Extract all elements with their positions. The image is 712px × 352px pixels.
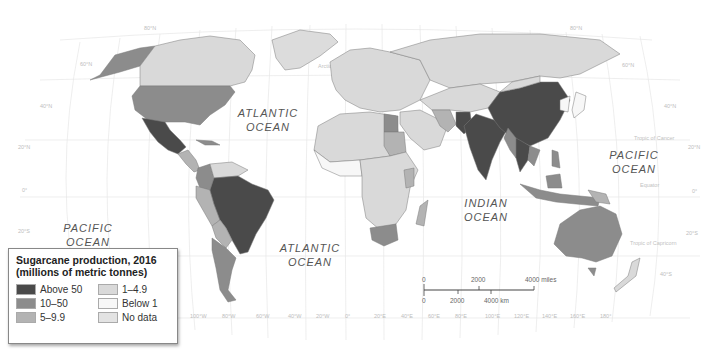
- svg-text:160°E: 160°E: [570, 313, 585, 319]
- legend-item-above-50: Above 50: [16, 284, 98, 295]
- svg-text:80°E: 80°E: [455, 313, 467, 319]
- vietnam: [528, 146, 540, 166]
- pacific-west-label-2: OCEAN: [66, 236, 110, 248]
- australia: [554, 206, 622, 262]
- pacific-west-label-1: PACIFIC: [63, 222, 113, 234]
- svg-text:60°E: 60°E: [428, 313, 440, 319]
- atlantic-south-label-2: OCEAN: [288, 256, 332, 268]
- lat-20s-right: 20°S: [686, 230, 698, 236]
- svg-text:120°E: 120°E: [514, 313, 529, 319]
- lat-20n-left: 20°N: [18, 144, 30, 150]
- egypt: [384, 114, 398, 132]
- tropic-cancer-label: Tropic of Cancer: [634, 135, 675, 141]
- cuba: [196, 140, 220, 145]
- tasmania: [588, 268, 596, 276]
- kenya: [404, 168, 414, 188]
- lat-20n-right: 20°N: [688, 144, 700, 150]
- madagascar: [416, 200, 428, 226]
- borneo: [546, 174, 562, 188]
- brazil: [210, 176, 274, 254]
- svg-text:20°E: 20°E: [374, 313, 386, 319]
- svg-text:100°E: 100°E: [485, 313, 500, 319]
- atlantic-south-label-1: ATLANTIC: [279, 242, 340, 254]
- svg-text:2000: 2000: [450, 297, 465, 304]
- atlantic-north-label-1: ATLANTIC: [237, 107, 298, 119]
- pacific-east-label-2: OCEAN: [612, 163, 656, 175]
- lat-40s-right: 40°S: [660, 271, 672, 277]
- scale-bar: 0 2000 4000 miles 0 2000 4000 km: [422, 276, 557, 304]
- legend-item-below-1: Below 1: [98, 298, 178, 309]
- svg-text:4000 km: 4000 km: [484, 297, 509, 304]
- svg-text:40°E: 40°E: [401, 313, 413, 319]
- svg-text:100°W: 100°W: [190, 313, 207, 319]
- svg-text:180°: 180°: [600, 313, 611, 319]
- svg-text:0: 0: [422, 276, 426, 283]
- legend-item-1-4.9: 1–4.9: [98, 284, 178, 295]
- south-africa: [370, 224, 398, 246]
- lat-40n-right: 40°N: [664, 103, 676, 109]
- lat-80n-right: 80°N: [570, 25, 582, 31]
- svg-text:60°W: 60°W: [256, 313, 270, 319]
- lat-60n-right: 60°N: [622, 62, 634, 68]
- svg-text:0°: 0°: [345, 313, 350, 319]
- lat-80n-left: 80°N: [144, 25, 156, 31]
- svg-text:140°E: 140°E: [542, 313, 557, 319]
- argentina: [212, 238, 236, 302]
- legend-item-10-50: 10–50: [16, 298, 98, 309]
- svg-text:2000: 2000: [471, 276, 486, 283]
- philippines: [552, 150, 560, 168]
- pacific-east-label-1: PACIFIC: [609, 149, 659, 161]
- svg-text:4000 miles: 4000 miles: [525, 276, 557, 283]
- svg-text:80°W: 80°W: [222, 313, 236, 319]
- legend-item-no-data: No data: [98, 312, 178, 323]
- lat-40n-left: 40°N: [40, 103, 52, 109]
- legend-item-5-9.9: 5–9.9: [16, 312, 98, 323]
- lat-20s-left: 20°S: [18, 228, 30, 234]
- venezuela-guianas: [210, 162, 248, 178]
- svg-text:0: 0: [422, 297, 426, 304]
- lat-eq-right: 0°: [692, 188, 697, 194]
- new-zealand: [614, 258, 640, 292]
- indian-label-1: INDIAN: [464, 197, 507, 209]
- tropic-capricorn-label: Tropic of Capricorn: [630, 240, 677, 246]
- atlantic-north-label-2: OCEAN: [246, 121, 290, 133]
- canada: [140, 36, 255, 86]
- legend-title-1: Sugarcane production, 2016: [16, 255, 171, 267]
- svg-text:20°W: 20°W: [316, 313, 330, 319]
- legend-title-2: (millions of metric tonnes): [16, 267, 171, 279]
- central-africa: [360, 152, 418, 230]
- legend: Sugarcane production, 2016 (millions of …: [8, 248, 178, 344]
- svg-text:40°W: 40°W: [288, 313, 302, 319]
- equator-label: Equator: [640, 182, 659, 188]
- lat-eq-left: 0°: [22, 187, 27, 193]
- lat-60n-left: 60°N: [80, 61, 92, 67]
- indian-label-2: OCEAN: [464, 211, 508, 223]
